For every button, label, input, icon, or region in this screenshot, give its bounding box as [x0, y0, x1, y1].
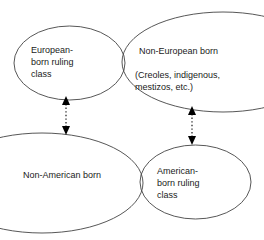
venn-diagram-shapes	[0, 0, 264, 240]
label-american-born-ruling-class: American- born ruling class	[157, 165, 229, 201]
label-non-european-born: Non-European born	[139, 45, 259, 57]
label-non-american-born: Non-American born	[23, 169, 143, 181]
ellipse-non-european-born	[122, 12, 264, 112]
label-european-born-ruling-class: European- born ruling class	[31, 44, 103, 80]
label-non-european-born-detail: (Creoles, indigenous, mestizos, etc.)	[135, 69, 260, 93]
venn-diagram: European- born ruling class Non-European…	[0, 0, 264, 240]
right-connector-arrowhead-down	[188, 136, 196, 145]
left-connector	[62, 96, 70, 135]
ellipse-non-american-born	[0, 133, 143, 233]
right-connector	[188, 106, 196, 145]
left-connector-arrowhead-up	[62, 96, 70, 105]
